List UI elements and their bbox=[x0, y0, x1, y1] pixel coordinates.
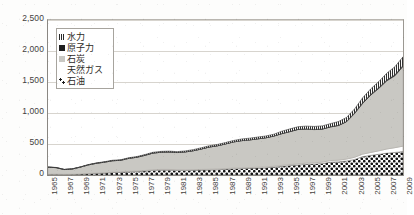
legend-swatch-icon bbox=[59, 34, 65, 40]
x-axis-tick-label: 1985 bbox=[212, 177, 220, 195]
x-axis-tick-label: 1969 bbox=[83, 177, 91, 195]
x-axis-tick-label: 1967 bbox=[67, 177, 75, 195]
legend-item-nuclear[interactable]: 原子力 bbox=[59, 42, 110, 53]
y-axis-tick-label: 2,500 bbox=[2, 14, 44, 23]
x-axis: 1965196719691971197319751977197919811983… bbox=[47, 177, 404, 215]
x-axis-tick-label: 1991 bbox=[261, 177, 269, 195]
x-axis-tick-label: 1995 bbox=[293, 177, 301, 195]
x-axis-tick-label: 1977 bbox=[148, 177, 156, 195]
x-axis-tick-label: 1989 bbox=[245, 177, 253, 195]
y-axis: 2,5002,0001,5001,0005000 bbox=[0, 0, 44, 215]
x-axis-tick-label: 2001 bbox=[341, 177, 349, 195]
x-axis-tick-label: 1999 bbox=[325, 177, 333, 195]
x-axis-tick-label: 1981 bbox=[180, 177, 188, 195]
legend-swatch-icon bbox=[59, 78, 65, 84]
x-axis-tick-label: 1983 bbox=[196, 177, 204, 195]
legend-item-label: 天然ガス bbox=[67, 65, 103, 75]
x-axis-tick-label: 1997 bbox=[309, 177, 317, 195]
y-axis-tick-label: 1,000 bbox=[2, 107, 44, 116]
x-axis-tick-label: 2009 bbox=[406, 177, 414, 195]
x-axis-tick-label: 1973 bbox=[116, 177, 124, 195]
legend-item-coal[interactable]: 石炭 bbox=[59, 53, 110, 64]
legend-swatch-icon bbox=[59, 67, 65, 73]
legend-swatch-icon bbox=[59, 45, 65, 51]
legend-item-label: 水力 bbox=[67, 32, 85, 42]
legend-item-label: 原子力 bbox=[67, 43, 94, 53]
y-axis-tick-label: 2,000 bbox=[2, 45, 44, 54]
x-axis-tick-label: 1987 bbox=[229, 177, 237, 195]
x-axis-tick-label: 1979 bbox=[164, 177, 172, 195]
x-axis-tick-label: 1965 bbox=[51, 177, 59, 195]
y-axis-tick-label: 0 bbox=[2, 169, 44, 178]
legend-item-label: 石炭 bbox=[67, 54, 85, 64]
x-axis-tick-label: 2005 bbox=[374, 177, 382, 195]
legend-swatch-icon bbox=[59, 56, 65, 62]
legend-item-label: 石油 bbox=[67, 76, 85, 86]
chart-legend: 水力原子力石炭天然ガス石油 bbox=[56, 28, 114, 89]
legend-item-oil[interactable]: 石油 bbox=[59, 75, 110, 86]
legend-item-gas[interactable]: 天然ガス bbox=[59, 64, 110, 75]
x-axis-tick-label: 1975 bbox=[132, 177, 140, 195]
legend-item-hydro[interactable]: 水力 bbox=[59, 31, 110, 42]
x-axis-tick-label: 1971 bbox=[99, 177, 107, 195]
x-axis-tick-label: 1993 bbox=[277, 177, 285, 195]
x-axis-tick-label: 2007 bbox=[390, 177, 398, 195]
x-axis-tick-label: 2003 bbox=[358, 177, 366, 195]
y-axis-tick-label: 500 bbox=[2, 138, 44, 147]
y-axis-tick-label: 1,500 bbox=[2, 76, 44, 85]
